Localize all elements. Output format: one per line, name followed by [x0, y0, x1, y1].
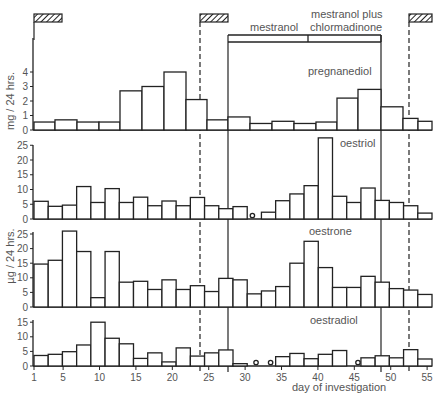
bar	[381, 107, 403, 130]
bar	[134, 197, 148, 219]
y-tick-label: 15	[17, 258, 29, 269]
bar	[164, 72, 186, 130]
bar	[176, 289, 190, 307]
treatment-mestranol-label: mestranol	[250, 21, 298, 33]
x-tick-label: 20	[167, 372, 179, 383]
bar	[162, 280, 176, 307]
bar	[375, 356, 389, 366]
bar	[361, 358, 375, 366]
bar	[404, 290, 418, 307]
bar	[290, 263, 304, 307]
bar	[233, 280, 247, 307]
bar	[347, 202, 361, 219]
bar	[148, 289, 162, 307]
bar	[77, 187, 91, 219]
bar	[205, 353, 219, 366]
panel-label-pregnanediol: pregnanediol	[308, 65, 372, 77]
bar	[233, 207, 247, 219]
y-tick-label: 2	[22, 96, 28, 107]
panels: 0123405101520250510152025051015	[17, 38, 432, 372]
bar	[34, 355, 48, 366]
bar	[318, 138, 332, 219]
y-tick-label: 10	[17, 184, 29, 195]
bar	[418, 294, 432, 307]
y-tick-label: 10	[17, 331, 29, 342]
treatment-bracket	[228, 35, 381, 42]
below-detection-circle	[268, 360, 272, 364]
x-tick-label: 35	[276, 372, 288, 383]
bar	[219, 278, 233, 307]
bar	[290, 194, 304, 219]
bar	[77, 252, 91, 307]
panel-pregnanediol: 01234	[22, 38, 432, 136]
bar	[34, 264, 48, 307]
bar	[176, 206, 190, 219]
panel-label-oestriol: oestriol	[340, 137, 375, 149]
bar	[333, 287, 347, 307]
y-tick-label: 10	[17, 272, 29, 283]
bar	[148, 353, 162, 366]
bar	[119, 344, 133, 366]
bar	[304, 359, 318, 366]
bar	[62, 231, 76, 307]
bar	[134, 281, 148, 307]
bar	[55, 120, 77, 130]
bar	[190, 197, 204, 219]
x-tick-label: 15	[130, 372, 142, 383]
x-tick-label: 55	[422, 372, 434, 383]
treatment-combo-label-line1: mestranol plus	[311, 8, 383, 20]
bar	[62, 205, 76, 219]
bar	[261, 291, 275, 307]
bar	[142, 87, 164, 131]
bar	[148, 206, 162, 219]
bar	[389, 202, 403, 219]
bar	[318, 354, 332, 366]
bar	[205, 292, 219, 307]
bar	[91, 298, 105, 307]
hormone-excretion-chart: 0123405101520250510152025051015 15101520…	[0, 0, 434, 395]
y-tick-label: 20	[17, 243, 29, 254]
bar	[77, 122, 99, 130]
below-detection-circle	[250, 213, 254, 217]
bar	[247, 294, 261, 307]
bar	[276, 287, 290, 307]
bar	[361, 188, 375, 219]
y-axis-label-ug: µg / 24 hrs.	[4, 228, 16, 283]
bar	[48, 206, 62, 219]
bar	[304, 241, 318, 307]
bar	[318, 268, 332, 307]
y-tick-label: 25	[17, 229, 29, 240]
bar	[162, 362, 176, 366]
bar	[219, 350, 233, 366]
x-tick-label: 5	[60, 372, 66, 383]
y-tick-label: 0	[22, 214, 28, 225]
x-tick-label: 10	[94, 372, 106, 383]
bar	[375, 282, 389, 307]
bar	[207, 120, 228, 130]
y-tick-label: 0	[22, 361, 28, 372]
panel-label-oestradiol: oestradiol	[310, 314, 358, 326]
bar	[418, 359, 432, 366]
y-axis-label-mg: mg / 24 hrs.	[4, 72, 16, 130]
y-tick-label: 20	[17, 155, 29, 166]
bar	[250, 123, 272, 130]
bar	[119, 202, 133, 219]
bar	[190, 356, 204, 366]
y-tick-label: 4	[22, 67, 28, 78]
bar	[304, 186, 318, 219]
bar	[333, 196, 347, 219]
bar	[418, 213, 432, 219]
bar	[233, 364, 247, 366]
y-tick-label: 3	[22, 81, 28, 92]
x-axis-label: day of investigation	[292, 381, 386, 393]
bar	[48, 354, 62, 366]
bar	[404, 350, 418, 366]
bar	[337, 98, 358, 130]
bar	[375, 200, 389, 219]
bar	[219, 209, 233, 219]
menstruation-marker	[34, 14, 62, 22]
y-tick-label: 15	[17, 317, 29, 328]
panel-label-oestrone: oestrone	[309, 225, 352, 237]
panel-oestradiol: 051015	[17, 317, 432, 372]
y-tick-label: 5	[22, 287, 28, 298]
